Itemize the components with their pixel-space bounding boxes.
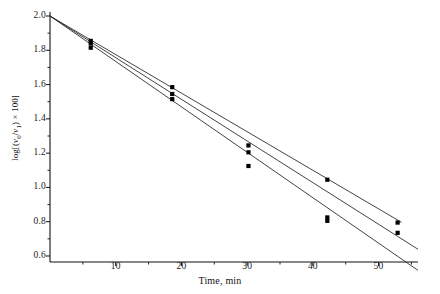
data-point-s2-p2 [246, 164, 250, 168]
y-label-pre: log[( [10, 143, 20, 161]
x-tick-label-30: 30 [232, 262, 262, 272]
y-axis-label-wrapper: log[(v0/v1) × 100] [4, 53, 20, 203]
y-label-slash: / [10, 133, 20, 136]
data-point-s1-p4 [396, 231, 400, 235]
data-point-s0-p1 [170, 85, 174, 89]
tick-marks [46, 16, 411, 266]
data-point-s2-p0 [89, 46, 93, 50]
data-point-s1-p0 [89, 41, 93, 45]
data-point-s0-p4 [396, 220, 400, 224]
y-label-v-numerator: v [10, 139, 20, 143]
x-tick-label-40: 40 [298, 262, 328, 272]
y-label-v-denominator: v [10, 129, 20, 133]
y-label-post: ) × 100] [10, 95, 20, 125]
y-label-sub-denominator: 1 [15, 125, 23, 129]
y-tick-label-2.0: 2.0 [12, 11, 46, 21]
figure-container: 0.60.81.01.21.41.61.82.0 1020304050 Time… [0, 0, 440, 294]
y-axis-label: log[(v0/v1) × 100] [10, 95, 20, 161]
data-point-markers [89, 39, 400, 235]
data-point-s2-p3 [325, 219, 329, 223]
axis-lines [50, 12, 418, 262]
data-point-s1-p2 [246, 150, 250, 154]
data-point-s0-p2 [246, 143, 250, 147]
x-tick-label-10: 10 [101, 262, 131, 272]
fit-lines [50, 16, 418, 270]
fit-line-series-1 [50, 16, 418, 249]
fit-line-series-2 [50, 16, 418, 270]
data-point-s0-p3 [325, 178, 329, 182]
chart-canvas [0, 0, 440, 294]
y-label-sub-numerator: 0 [15, 135, 23, 139]
y-tick-label-0.6: 0.6 [12, 251, 46, 261]
x-axis-label: Time, min [0, 275, 440, 286]
fit-line-series-0 [50, 16, 402, 222]
x-tick-label-20: 20 [166, 262, 196, 272]
data-point-s2-p1 [170, 97, 174, 101]
data-point-s1-p1 [170, 92, 174, 96]
x-tick-label-50: 50 [364, 262, 394, 272]
y-tick-label-0.8: 0.8 [12, 217, 46, 227]
